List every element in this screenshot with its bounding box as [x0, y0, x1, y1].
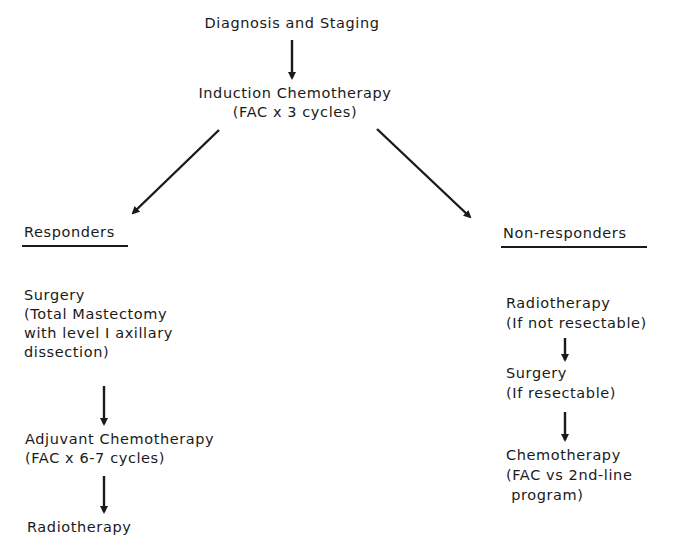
step-line: with level I axillary	[24, 324, 173, 343]
step-line: (If resectable)	[506, 384, 616, 403]
nonresponders-heading: Non-responders	[503, 224, 627, 243]
step-line: Surgery	[506, 364, 567, 383]
responders-heading: Responders	[24, 223, 115, 242]
responders-underline	[22, 245, 128, 247]
step-line: Chemotherapy	[506, 446, 621, 465]
induction-chemo-label: Induction Chemotherapy	[170, 84, 420, 103]
step-line: (If not resectable)	[506, 314, 647, 333]
arrow-induction-to-responders	[133, 130, 219, 213]
step-line: (Total Mastectomy	[24, 305, 167, 324]
step-line: Surgery	[24, 286, 85, 305]
step-line: (FAC vs 2nd-line	[506, 466, 632, 485]
step-line: dissection)	[24, 343, 109, 362]
arrow-induction-to-nonresponders	[377, 129, 470, 217]
step-line: program)	[506, 486, 584, 505]
step-line: Radiotherapy	[27, 518, 131, 537]
nonresponders-underline	[501, 246, 647, 248]
step-line: Radiotherapy	[506, 294, 610, 313]
induction-chemo-detail: (FAC x 3 cycles)	[170, 103, 420, 122]
step-line: Adjuvant Chemotherapy	[25, 430, 214, 449]
diagnosis-staging-label: Diagnosis and Staging	[192, 14, 392, 33]
step-line: (FAC x 6-7 cycles)	[25, 449, 165, 468]
